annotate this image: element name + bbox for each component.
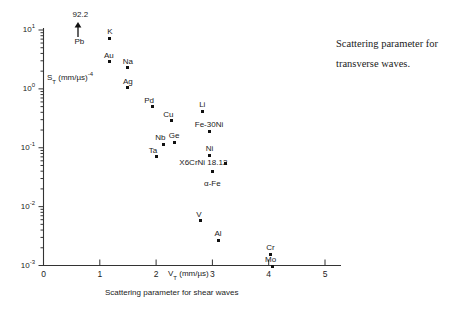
point-label: Cu [153,111,183,119]
point-label: Ta [138,147,168,155]
point-label: Cr [255,244,285,252]
point-label: Mo [256,256,286,264]
point-label: Al [203,230,233,238]
data-point [170,119,173,122]
point-label: Ge [159,132,189,140]
y-title-subscript: T [52,79,56,85]
scatter-plot: 10110010-110-210-3 012345 ST (mm/µs)-4 V… [0,0,350,300]
data-point [201,110,204,113]
point-label: Ni [195,145,225,153]
data-point [173,141,176,144]
x-tick-label: 1 [90,270,110,279]
data-point [162,143,165,146]
y-tick-exponent: -3 [30,259,35,265]
y-title-exponent: -4 [88,71,93,77]
caption-line-2: transverse waves. [336,54,458,74]
point-label: α-Fe [197,180,227,188]
data-point [151,105,154,108]
y-tick-label: 100 [6,85,35,93]
data-point [126,86,129,89]
y-tick-exponent: 1 [32,23,35,29]
caption-line-1: Scattering parameter for [336,34,458,54]
data-point [211,170,214,173]
off-scale-arrow-icon [73,22,83,37]
y-tick-label: 101 [6,26,35,34]
data-point [208,130,211,133]
data-point [108,60,111,63]
point-label: Ag [113,78,143,86]
y-tick-label: 10-2 [6,203,35,211]
y-tick-label: 10-1 [6,144,35,152]
point-label: Pb [69,38,89,46]
data-point [155,155,158,158]
point-label: X6CrNi 18.12 [155,159,227,167]
point-label: Li [187,101,217,109]
data-point [271,265,274,268]
off-scale-value-annotation: 92.2 [68,11,92,19]
axis-tick-marks [39,30,326,266]
data-point [208,154,211,157]
plot-axes [0,0,350,300]
data-point [199,219,202,222]
y-axis-title: ST (mm/µs)-4 [47,73,93,82]
point-label: Pd [134,97,164,105]
figure-caption: Scattering parameter for transverse wave… [336,34,458,74]
x-axis-caption: Scattering parameter for shear waves [105,288,238,297]
y-tick-exponent: 0 [32,82,35,88]
point-label: V [184,211,214,219]
x-tick-label: 2 [146,270,166,279]
y-tick-label: 10-3 [6,262,35,270]
y-tick-exponent: -2 [30,200,35,206]
x-axis-variable-label: VT (mm/µs) [168,269,209,278]
point-label: K [95,28,125,36]
figure-container: 10110010-110-210-3 012345 ST (mm/µs)-4 V… [0,0,458,314]
data-point [217,239,220,242]
x-tick-label: 5 [315,270,335,279]
x-tick-label: 0 [34,270,54,279]
point-label: Fe-30Ni [194,121,224,129]
y-tick-exponent: -1 [30,141,35,147]
data-point [108,37,111,40]
x-title-subscript: T [173,275,177,281]
point-label: Na [113,58,143,66]
data-point [126,66,129,69]
x-tick-label: 4 [259,270,279,279]
